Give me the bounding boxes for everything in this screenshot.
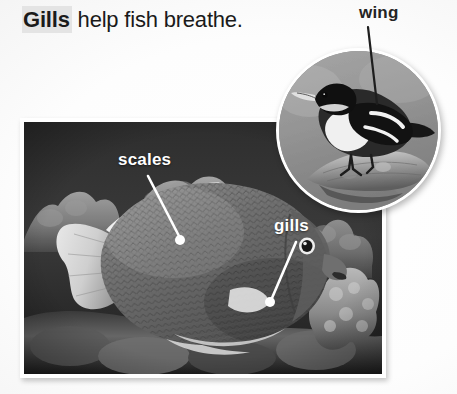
page-canvas: Gills help fish breathe.: [0, 0, 457, 394]
page-heading: Gills help fish breathe.: [22, 7, 243, 33]
bird-inset-photo: [276, 48, 441, 213]
bird-photo-graphic: [279, 51, 438, 210]
callout-label-scales: scales: [118, 150, 171, 170]
heading-keyword: Gills: [22, 6, 72, 33]
heading-rest: help fish breathe.: [72, 7, 243, 32]
callout-label-gills: gills: [274, 216, 309, 236]
callout-label-wing: wing: [359, 3, 399, 23]
